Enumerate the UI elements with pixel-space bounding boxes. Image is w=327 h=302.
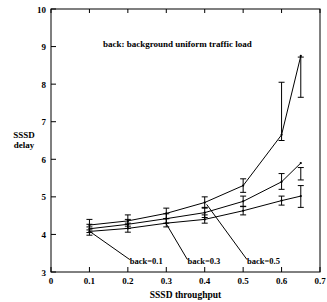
data-point <box>242 200 244 202</box>
x-tick-label: 0.2 <box>122 276 134 286</box>
data-point <box>242 210 244 212</box>
series-label-leader <box>166 224 187 260</box>
data-point <box>300 55 302 57</box>
data-point <box>280 134 282 136</box>
data-point <box>204 212 206 214</box>
series-label-leader <box>207 204 247 259</box>
y-tick-label: 4 <box>42 230 47 240</box>
chart-svg: 00.10.20.30.40.50.60.7345678910SSSD thro… <box>0 0 327 302</box>
series-label-back=0.3: back=0.3 <box>187 256 220 266</box>
series-label-leader <box>91 233 129 260</box>
y-tick-label: 9 <box>42 42 47 52</box>
data-point <box>165 212 167 214</box>
data-point <box>242 184 244 186</box>
x-tick-label: 0.6 <box>276 276 288 286</box>
y-tick-label: 6 <box>42 155 47 165</box>
y-axis-title-line1: SSSD <box>13 130 35 140</box>
x-tick-label: 0.1 <box>84 276 96 286</box>
series-line-back=0.5 <box>89 56 300 225</box>
chart-annotation: back: background uniform traffic load <box>103 39 252 49</box>
data-point <box>300 195 302 197</box>
x-tick-label: 0.4 <box>199 276 211 286</box>
y-tick-label: 8 <box>42 80 47 90</box>
y-tick-label: 3 <box>42 268 47 278</box>
x-tick-label: 0 <box>49 276 54 286</box>
chart-figure: 00.10.20.30.40.50.60.7345678910SSSD thro… <box>0 0 327 302</box>
data-point <box>204 218 206 220</box>
data-point <box>204 201 206 203</box>
y-tick-label: 10 <box>37 5 47 15</box>
data-point <box>88 224 90 226</box>
data-point <box>280 200 282 202</box>
x-tick-label: 0.7 <box>314 276 326 286</box>
series-label-back=0.5: back=0.5 <box>247 256 280 266</box>
y-tick-label: 7 <box>42 117 47 127</box>
x-tick-label: 0.5 <box>238 276 250 286</box>
data-point <box>300 162 302 164</box>
data-point <box>127 220 129 222</box>
data-point <box>280 181 282 183</box>
series-label-back=0.1: back=0.1 <box>130 256 163 266</box>
x-axis-title: SSSD throughput <box>150 290 222 300</box>
series-line-back=0.3 <box>89 163 300 229</box>
y-tick-label: 5 <box>42 192 47 202</box>
x-tick-label: 0.3 <box>161 276 173 286</box>
y-axis-title-line2: delay <box>14 140 35 150</box>
